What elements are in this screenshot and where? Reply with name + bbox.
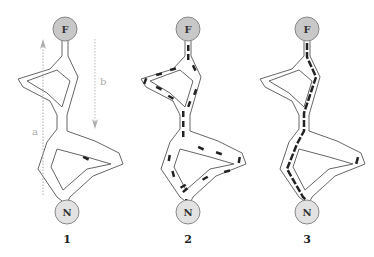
top-node-label: F [303,24,310,35]
top-node-label: F [184,24,191,35]
axis-b: b [92,39,106,129]
panel-label: 2 [184,233,192,246]
tube-network [260,41,365,212]
bottom-node-label: N [183,207,192,218]
top-node: F [295,17,319,41]
panel-3: F N 3 [260,17,365,246]
diagram-canvas: a b F N 1 [0,0,374,257]
axis-a: a [32,39,46,195]
axis-a-label: a [32,126,38,137]
bottom-node-label: N [62,207,71,218]
particle-trail [287,43,359,209]
bottom-node: N [176,200,200,224]
bottom-node: N [295,200,319,224]
panel-1: a b F N 1 [18,17,123,246]
bottom-node-label: N [302,207,311,218]
panel-label: 1 [63,233,71,246]
top-node: F [176,17,200,41]
top-node: F [53,17,77,41]
panel-2: F N 2 [141,17,246,246]
particles [143,45,241,205]
top-node-label: F [61,24,68,35]
bottom-node: N [55,200,79,224]
panel-label: 3 [303,233,311,246]
axis-b-label: b [100,76,106,87]
